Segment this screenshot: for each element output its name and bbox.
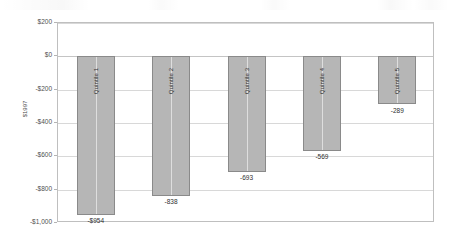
scan-artifact [0,0,449,10]
bar-category-label: Quintile 1 [93,59,99,103]
y-axis-tick-mark [54,22,57,23]
y-axis-tick-mark [54,155,57,156]
bar-value-label: -569 [297,153,347,160]
y-axis-tick-mark [54,122,57,123]
bar-value-label: -838 [146,198,196,205]
y-axis-tick-mark [54,55,57,56]
bar-category-label: Quintile 2 [168,59,174,103]
plot-area: Quintile 1-$954Quintile 2-838Quintile 3-… [57,22,434,222]
bar-category-label: Quintile 4 [319,59,325,103]
y-axis-tick-mark [54,222,57,223]
y-axis-tick-label: $0 [0,51,52,58]
bar-value-label: -$954 [71,217,121,224]
y-axis-tick-mark [54,189,57,190]
y-axis-tick-label: -$1,000 [0,218,52,225]
bar-category-label: Quintile 5 [394,59,400,103]
y-axis-tick-mark [54,89,57,90]
y-axis-tick-label: $200 [0,18,52,25]
y-axis-tick-label: -$200 [0,85,52,92]
bar-value-label: -289 [372,107,422,114]
y-axis-tick-label: -$600 [0,151,52,158]
gridline [58,23,433,24]
bar-chart: $1997 Quintile 1-$954Quintile 2-838Quint… [0,0,449,239]
y-axis-tick-label: -$800 [0,185,52,192]
bar-value-label: -693 [222,174,272,181]
bar-category-label: Quintile 3 [244,59,250,103]
y-axis-tick-label: -$400 [0,118,52,125]
